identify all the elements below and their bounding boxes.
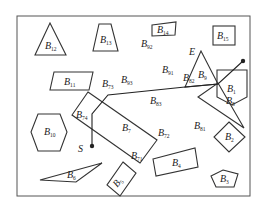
svg-text:B9: B9 xyxy=(198,69,207,81)
obstacle-b15: B15 xyxy=(213,26,235,45)
svg-text:B13: B13 xyxy=(100,34,112,46)
obstacle-b12: B12 xyxy=(35,23,66,55)
svg-text:B1: B1 xyxy=(227,83,236,95)
start-point xyxy=(90,144,94,148)
svg-text:B3: B3 xyxy=(220,173,229,185)
svg-text:B7: B7 xyxy=(122,122,131,134)
svg-text:B10: B10 xyxy=(44,126,56,138)
obstacle-b11: B11 xyxy=(50,72,93,90)
vertex-label-b73: B73 xyxy=(102,78,114,90)
vertex-label-b81: B81 xyxy=(194,120,206,132)
svg-text:B12: B12 xyxy=(45,40,57,52)
workspace-border xyxy=(17,16,250,196)
vertex-label-b91: B91 xyxy=(162,64,174,76)
obstacle-b10: B10 xyxy=(31,114,67,151)
obstacle-b13: B13 xyxy=(93,24,118,51)
obstacle-b4: B4 xyxy=(153,148,198,176)
obstacle-b7: B7 xyxy=(72,92,157,163)
obstacle-b14: B14 xyxy=(152,22,176,36)
vertex-label-b72: B72 xyxy=(158,127,170,139)
svg-text:B11: B11 xyxy=(64,76,76,88)
start-label: S xyxy=(78,143,83,154)
vertex-label-b71: B71 xyxy=(131,150,143,162)
end-label: E xyxy=(188,46,195,57)
vertex-label-b93: B93 xyxy=(121,74,133,86)
obstacle-b2: B2 xyxy=(214,122,245,152)
obstacle-b5: B5 xyxy=(107,162,136,196)
vertex-label-b74: B74 xyxy=(76,109,88,121)
vertex-label-b83: B83 xyxy=(150,95,162,107)
vertex-label-b82: B82 xyxy=(183,72,195,84)
svg-text:B15: B15 xyxy=(217,30,229,42)
svg-text:B8: B8 xyxy=(226,95,235,107)
svg-text:B2: B2 xyxy=(225,131,234,143)
svg-text:B4: B4 xyxy=(172,157,181,169)
obstacle-b3: B3 xyxy=(211,170,238,187)
svg-text:B14: B14 xyxy=(157,24,169,36)
end-point xyxy=(241,59,245,63)
path-planning-diagram: B12 B13 B14 B15 B11 B9 B8 B1 B7 xyxy=(0,0,270,219)
obstacle-b8: B8 xyxy=(198,83,244,128)
obstacle-b6: B6 xyxy=(40,163,102,182)
vertex-label-b92: B92 xyxy=(141,38,153,50)
